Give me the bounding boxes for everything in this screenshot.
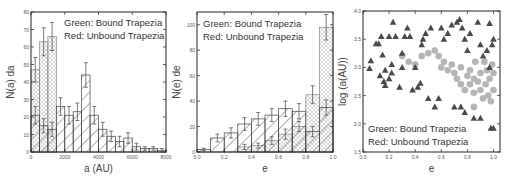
- scatter-point-bound: [425, 50, 432, 57]
- scatter-point-bound: [482, 81, 489, 88]
- scatter-point-unbound: [368, 57, 375, 63]
- scatter-point-unbound: [490, 36, 497, 42]
- scatter-point-unbound: [378, 33, 385, 39]
- legend-bound: Green: Bound Trapezia: [64, 17, 163, 28]
- y-tick-label: 1.5: [354, 149, 361, 155]
- scatter-point-unbound: [456, 16, 463, 22]
- x-tick-label: 0.2: [221, 154, 228, 160]
- scatter-point-bound: [454, 75, 461, 82]
- scatter-point-unbound: [392, 33, 399, 39]
- scatter-point-unbound: [379, 51, 386, 57]
- scatter-point-unbound: [425, 95, 432, 101]
- y-axis-label: log (a(AU)): [337, 57, 348, 106]
- scatter-point-unbound: [461, 109, 468, 115]
- x-tick-label: 0: [30, 154, 33, 160]
- y-tick-label: 3.5: [354, 36, 361, 42]
- scatter-point-unbound: [445, 30, 452, 36]
- y-axis-label: N(e) de: [171, 65, 182, 99]
- y-tick-label: 2.5: [354, 93, 361, 99]
- scatter-point-unbound: [428, 24, 435, 30]
- scatter-point-unbound: [435, 95, 442, 101]
- scatter-point-unbound: [477, 115, 484, 121]
- scatter-point-bound: [471, 89, 478, 96]
- scatter-point-unbound: [404, 24, 411, 30]
- scatter-point-unbound: [464, 47, 471, 53]
- x-tick-label: 0.8: [464, 154, 471, 160]
- histogram-e-panel: 0.00.20.40.60.81.0020406080100eN(e) deGr…: [171, 12, 337, 174]
- x-tick-label: 0.4: [412, 154, 419, 160]
- scatter-point-unbound: [388, 70, 395, 76]
- scatter-point-bound: [458, 64, 465, 71]
- scatter-point-unbound: [484, 47, 491, 53]
- x-tick-label: 2000: [59, 154, 70, 160]
- scatter-point-unbound: [382, 67, 389, 73]
- x-tick-label: 0.4: [248, 154, 255, 160]
- scatter-point-unbound: [467, 30, 474, 36]
- scatter-point-bound: [405, 58, 412, 65]
- legend-unbound: Red: Unbound Trapezia: [64, 30, 165, 41]
- scatter-point-bound: [418, 53, 425, 60]
- scatter-point-bound: [490, 87, 497, 94]
- legend-unbound: Red: Unbound Trapezia: [368, 136, 469, 147]
- scatter-point-unbound: [401, 33, 408, 39]
- y-tick-label: 4.0: [354, 8, 361, 14]
- scatter-point-unbound: [366, 65, 373, 71]
- scatter-point-unbound: [471, 115, 478, 121]
- x-axis-label: a (AU): [84, 163, 113, 174]
- scatter-point-unbound: [418, 41, 425, 47]
- scatter-point-unbound: [377, 72, 384, 78]
- y-tick-label: 50: [23, 62, 29, 68]
- histogram-a-panel: 0200040006000800001020304050607080a (AU)…: [5, 9, 172, 174]
- scatter-point-unbound: [431, 103, 438, 109]
- x-tick-label: 1.0: [490, 154, 497, 160]
- legend-bound: Green: Bound Trapezia: [368, 123, 467, 134]
- x-tick-label: 4000: [93, 154, 104, 160]
- scatter-point-bound: [481, 58, 488, 65]
- scatter-point-unbound: [390, 19, 397, 25]
- scatter-point-bound: [485, 92, 492, 99]
- scatter-point-unbound: [386, 33, 393, 39]
- x-axis-label: e: [262, 163, 268, 174]
- scatter-point-unbound: [388, 61, 395, 67]
- scatter-point-unbound: [441, 36, 448, 42]
- y-tick-label: 60: [23, 44, 29, 50]
- figure: 0200040006000800001020304050607080a (AU)…: [0, 0, 513, 181]
- x-tick-label: 0.6: [438, 154, 445, 160]
- scatter-point-bound: [472, 58, 479, 65]
- legend-unbound: Red: Unbound Trapezia: [203, 31, 304, 42]
- scatter-point-bound: [477, 70, 484, 77]
- scatter-point-bound: [467, 81, 474, 88]
- scatter-point-bound: [445, 67, 452, 74]
- scatter-point-unbound: [477, 41, 484, 47]
- scatter-point-bound: [458, 81, 465, 88]
- scatter-point-bound: [475, 78, 482, 85]
- scatter-point-bound: [435, 53, 442, 60]
- y-tick-label: 80: [23, 9, 29, 15]
- scatter-point-unbound: [399, 50, 406, 56]
- scatter-point-unbound: [399, 64, 406, 70]
- x-tick-label: 6000: [127, 154, 138, 160]
- y-tick-label: 20: [23, 114, 29, 120]
- scatter-point-unbound: [480, 53, 487, 59]
- y-tick-label: 3.0: [354, 64, 361, 70]
- scatter-point-unbound: [486, 20, 493, 26]
- scatter-point-bound: [486, 75, 493, 82]
- x-tick-label: 0.8: [302, 154, 309, 160]
- scatter-point-bound: [441, 58, 448, 65]
- scatter-point-bound: [488, 98, 495, 105]
- scatter-point-unbound: [489, 41, 496, 47]
- scatter-point-unbound: [475, 19, 482, 25]
- scatter-point-unbound: [438, 24, 445, 30]
- scatter-point-unbound: [417, 80, 424, 86]
- y-tick-label: 60: [189, 73, 195, 79]
- y-tick-label: 40: [23, 79, 29, 85]
- x-tick-label: 8000: [160, 154, 171, 160]
- y-tick-label: 2.0: [354, 121, 361, 127]
- y-tick-label: 30: [23, 97, 29, 103]
- x-axis-label: e: [429, 163, 435, 174]
- scatter-point-unbound: [407, 33, 414, 39]
- scatter-point-bound: [471, 104, 478, 111]
- scatter-point-bound: [451, 70, 458, 77]
- scatter-point-bound: [477, 87, 484, 94]
- y-tick-label: 70: [23, 27, 29, 33]
